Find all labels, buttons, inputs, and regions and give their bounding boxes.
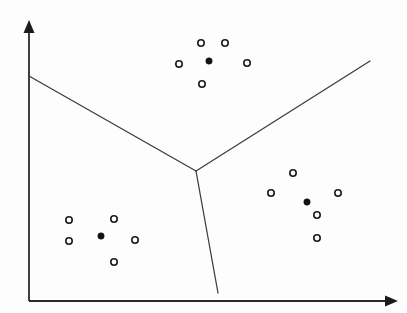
data-point: [198, 40, 204, 46]
data-point: [176, 61, 182, 67]
data-point: [290, 170, 296, 176]
data-point: [199, 81, 205, 87]
centroid-point: [98, 233, 104, 239]
data-point: [268, 190, 274, 196]
data-point: [314, 235, 320, 241]
centroid-point: [206, 58, 212, 64]
data-point: [222, 40, 228, 46]
centroid-point: [304, 199, 310, 205]
data-point: [66, 238, 72, 244]
data-point: [66, 217, 72, 223]
figure-container: [0, 0, 407, 313]
data-point: [132, 237, 138, 243]
data-point: [111, 259, 117, 265]
data-point: [111, 216, 117, 222]
voronoi-cluster-plot: [0, 0, 407, 313]
data-point: [314, 212, 320, 218]
plot-background: [0, 0, 407, 313]
data-point: [244, 60, 250, 66]
data-point: [335, 190, 341, 196]
